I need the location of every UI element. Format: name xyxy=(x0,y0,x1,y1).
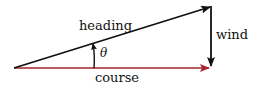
angle-arc xyxy=(93,44,94,68)
heading-label: heading xyxy=(79,18,132,33)
angle-theta-label: θ xyxy=(100,46,108,60)
wind-label: wind xyxy=(216,27,248,42)
course-label: course xyxy=(95,70,139,85)
heading-vector xyxy=(14,7,210,68)
wind-vector-diagram: heading wind course θ xyxy=(0,0,254,88)
